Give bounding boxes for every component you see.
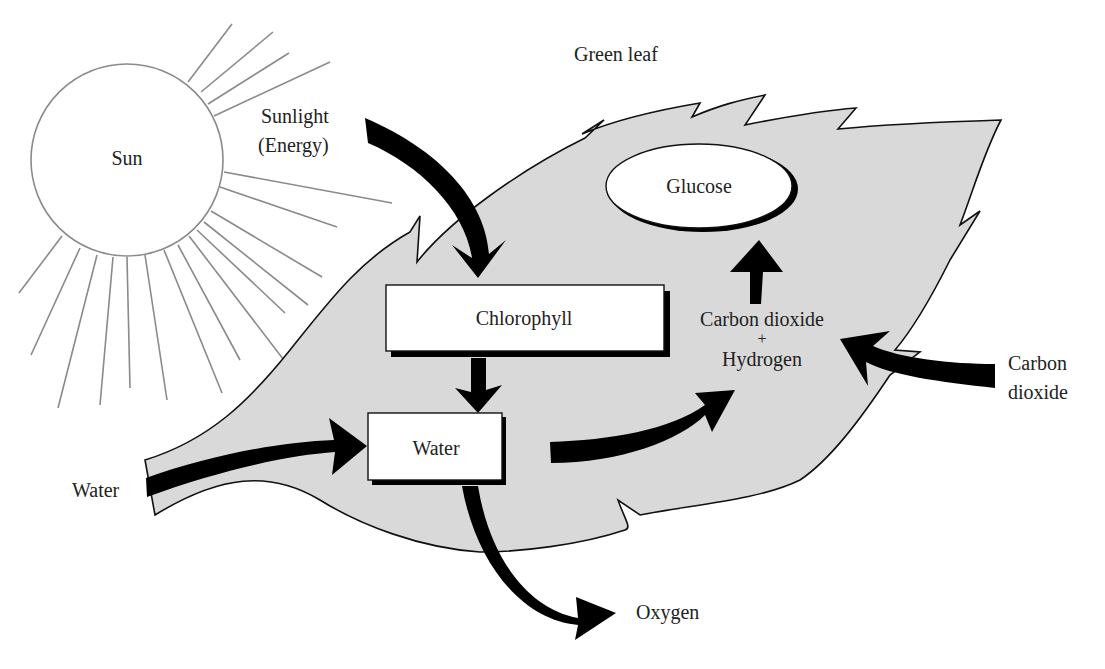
photosynthesis-diagram: Sun Green leaf Glucose Chlorophyll Water…: [0, 0, 1105, 669]
carbon-dioxide-label-line1: Carbon: [1008, 352, 1067, 374]
oxygen-label: Oxygen: [636, 601, 699, 624]
chlorophyll-label: Chlorophyll: [476, 307, 573, 330]
co2-hydrogen-label-line1: Carbon dioxide: [700, 308, 824, 330]
carbon-dioxide-label-line2: dioxide: [1008, 381, 1068, 403]
sunlight-label-line2: (Energy): [258, 134, 329, 157]
co2-hydrogen-label-line2: Hydrogen: [722, 348, 802, 371]
sunlight-label-line1: Sunlight: [261, 105, 329, 128]
water-box-label: Water: [412, 437, 460, 459]
water-input-label: Water: [72, 479, 120, 501]
co2-hydrogen-plus: +: [757, 330, 766, 347]
sun-label: Sun: [111, 147, 142, 169]
glucose-label: Glucose: [666, 175, 732, 197]
green-leaf-label: Green leaf: [574, 43, 658, 65]
